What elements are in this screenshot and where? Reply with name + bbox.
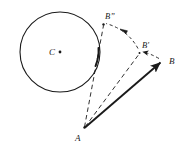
- label-B: B: [169, 56, 175, 66]
- segment-A-to-B-prime: [85, 54, 140, 128]
- point-dot-A: [83, 126, 85, 128]
- segment-A-to-B: [85, 63, 161, 128]
- geometry-canvas: C A B B' B”: [0, 0, 186, 147]
- label-A: A: [74, 133, 81, 143]
- arc-B-to-B-prime: [144, 52, 160, 59]
- segment-A-to-B-double-prime: [85, 26, 104, 128]
- label-B-prime: B': [142, 40, 149, 50]
- point-dot-B-prime: [139, 52, 141, 54]
- arc-midpoint-arrowhead: [120, 29, 128, 34]
- label-C: C: [49, 47, 56, 57]
- label-B-double-prime: B”: [105, 11, 115, 21]
- circle-center-dot: [59, 51, 62, 54]
- point-dot-B-double-prime: [102, 23, 104, 25]
- geometry-figure: C A B B' B”: [0, 0, 186, 147]
- arc-B-prime-to-B-double-prime: [106, 24, 138, 49]
